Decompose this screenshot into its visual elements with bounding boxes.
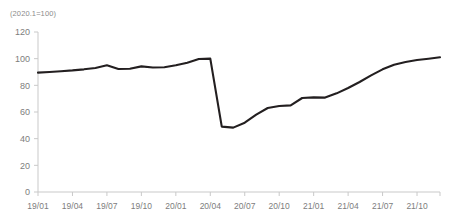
x-axis: 19/0119/0419/0719/1020/0120/0420/0720/10… (27, 192, 440, 211)
x-axis-tick-label: 19/10 (131, 201, 153, 211)
y-axis-tick-label: 40 (20, 134, 30, 144)
y-axis-tick-label: 100 (15, 54, 30, 64)
x-axis-tick-label: 21/07 (372, 201, 394, 211)
x-axis-tick-label: 19/07 (96, 201, 118, 211)
y-axis-tick-label: 120 (15, 27, 30, 37)
x-axis-tick-label: 21/04 (337, 201, 359, 211)
data-series-group (38, 57, 440, 127)
y-axis-tick-label: 20 (20, 161, 30, 171)
x-axis-tick-label: 20/10 (269, 201, 291, 211)
line-chart: (2020.1=100) 020406080100120 19/0119/041… (0, 0, 461, 223)
y-axis-tick-label: 0 (25, 187, 30, 197)
x-axis-tick-label: 21/01 (303, 201, 325, 211)
x-axis-tick-label: 20/07 (234, 201, 256, 211)
y-axis-tick-label: 80 (20, 81, 30, 91)
x-axis-tick-label: 19/01 (27, 201, 49, 211)
y-axis-tick-label: 60 (20, 107, 30, 117)
x-axis-tick-label: 21/10 (406, 201, 428, 211)
x-axis-tick-label: 20/04 (200, 201, 222, 211)
x-axis-tick-label: 20/01 (165, 201, 187, 211)
data-line (38, 57, 440, 127)
chart-plot-area: 020406080100120 19/0119/0419/0719/1020/0… (0, 0, 461, 223)
y-axis: 020406080100120 (15, 27, 38, 197)
x-axis-tick-label: 19/04 (62, 201, 84, 211)
